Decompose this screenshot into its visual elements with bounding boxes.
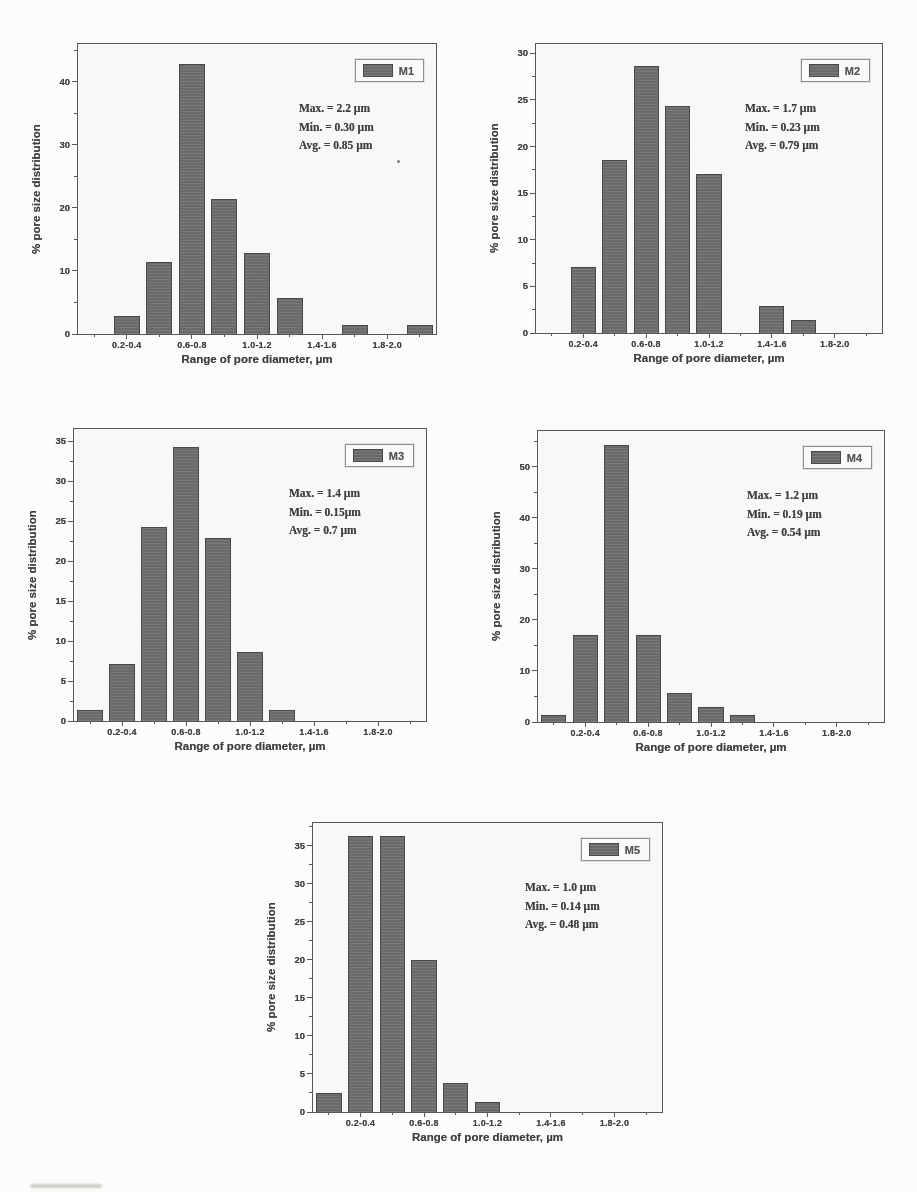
- x-axis-minor-tick: [419, 334, 420, 337]
- x-axis-tick: [550, 1112, 551, 1117]
- x-axis-minor-tick: [354, 334, 355, 337]
- x-axis-tick: [257, 334, 258, 339]
- y-tick-label: 30: [504, 563, 530, 574]
- x-tick-label: 1.0-1.2: [677, 339, 741, 349]
- x-tick-label: 0.6-0.8: [616, 728, 680, 738]
- x-axis-tick: [378, 721, 379, 726]
- y-tick-label: 15: [279, 992, 305, 1003]
- legend-m2: M2: [801, 59, 870, 82]
- y-axis-minor-tick: [532, 263, 536, 264]
- y-axis-tick: [68, 721, 74, 722]
- y-axis-title: % pore size distribution: [28, 44, 44, 334]
- y-tick-label: 30: [502, 47, 528, 58]
- x-axis-tick: [711, 722, 712, 727]
- stats-annotation-m2: Max. = 1.7 µm Min. = 0.23 µm Avg. = 0.79…: [745, 99, 877, 155]
- scanned-figure-page: % pore size distribution Range of pore d…: [0, 0, 917, 1192]
- y-axis-tick: [72, 81, 78, 82]
- y-axis-tick: [68, 561, 74, 562]
- stat-min: Min. = 0.23 µm: [745, 118, 877, 137]
- x-axis-minor-tick: [646, 1112, 647, 1115]
- x-axis-minor-tick: [616, 722, 617, 725]
- x-axis-minor-tick: [677, 333, 678, 336]
- y-axis-minor-tick: [74, 302, 78, 303]
- x-axis-minor-tick: [614, 333, 615, 336]
- stats-annotation-m5: Max. = 1.0 µm Min. = 0.14 µm Avg. = 0.48…: [525, 878, 657, 934]
- bar-2.0-2.2: [407, 325, 433, 334]
- x-axis-minor-tick: [159, 334, 160, 337]
- stat-min: Min. = 0.30 µm: [299, 118, 431, 137]
- y-axis-minor-tick: [309, 940, 313, 941]
- x-axis-minor-tick: [410, 721, 411, 724]
- y-axis-tick: [530, 53, 536, 54]
- x-axis-minor-tick: [346, 721, 347, 724]
- y-axis-tick: [72, 334, 78, 335]
- y-axis-minor-tick: [74, 113, 78, 114]
- y-axis-tick: [532, 619, 538, 620]
- x-tick-label: 0.6-0.8: [154, 727, 218, 737]
- y-axis-minor-tick: [70, 621, 74, 622]
- bar-1.2-1.4: [277, 298, 303, 334]
- x-axis-minor-tick: [455, 1112, 456, 1115]
- x-axis-minor-tick: [742, 722, 743, 725]
- y-axis-minor-tick: [532, 216, 536, 217]
- x-axis-tick: [250, 721, 251, 726]
- y-tick-label: 0: [504, 716, 530, 727]
- chart-m5-plot-area: % pore size distribution Range of pore d…: [312, 822, 663, 1113]
- y-axis-minor-tick: [70, 461, 74, 462]
- legend-swatch-icon: [811, 451, 841, 464]
- y-tick-label: 25: [40, 515, 66, 526]
- y-tick-label: 20: [504, 614, 530, 625]
- x-axis-title: Range of pore diameter, µm: [536, 352, 882, 364]
- legend-label: M4: [847, 452, 862, 464]
- stat-min: Min. = 0.19 µm: [747, 505, 879, 524]
- x-axis-title: Range of pore diameter, µm: [538, 741, 884, 753]
- chart-m1-plot-area: % pore size distribution Range of pore d…: [77, 43, 437, 335]
- x-tick-label: 1.8-2.0: [346, 727, 410, 737]
- y-axis-tick: [530, 239, 536, 240]
- bar-0.2-0.4: [348, 836, 373, 1112]
- bar-0.4-0.6: [146, 262, 172, 334]
- y-tick-label: 20: [40, 555, 66, 566]
- x-axis-title: Range of pore diameter, µm: [74, 740, 426, 752]
- x-axis-minor-tick: [289, 334, 290, 337]
- stat-avg: Avg. = 0.79 µm: [745, 136, 877, 155]
- stat-avg: Avg. = 0.48 µm: [525, 915, 657, 934]
- y-tick-label: 35: [40, 435, 66, 446]
- y-axis-title: % pore size distribution: [24, 429, 40, 721]
- y-axis-tick: [307, 1112, 313, 1113]
- y-axis-tick: [307, 845, 313, 846]
- y-axis-minor-tick: [532, 309, 536, 310]
- y-axis-tick: [307, 959, 313, 960]
- legend-m5: M5: [581, 838, 650, 861]
- legend-swatch-icon: [809, 64, 839, 77]
- y-axis-title: % pore size distribution: [486, 44, 502, 333]
- y-tick-label: 50: [504, 461, 530, 472]
- bar-1.0-1.2: [475, 1102, 500, 1112]
- y-tick-label: 20: [44, 202, 70, 213]
- x-tick-label: 1.4-1.6: [519, 1118, 583, 1128]
- x-tick-label: 0.6-0.8: [160, 340, 224, 350]
- stat-max: Max. = 2.2 µm: [299, 99, 431, 118]
- legend-swatch-icon: [589, 843, 619, 856]
- y-axis-minor-tick: [309, 1054, 313, 1055]
- bar-1.2-1.4: [269, 710, 295, 721]
- y-tick-label: 5: [279, 1068, 305, 1079]
- x-tick-label: 0.2-0.4: [329, 1118, 393, 1128]
- bar-0.0-0.2: [541, 715, 566, 722]
- x-axis-title: Range of pore diameter, µm: [78, 353, 436, 365]
- x-axis-minor-tick: [90, 721, 91, 724]
- x-axis-tick: [836, 722, 837, 727]
- y-axis-minor-tick: [70, 661, 74, 662]
- bar-0.6-0.8: [411, 960, 436, 1112]
- y-tick-label: 0: [40, 715, 66, 726]
- bar-0.8-1.0: [667, 693, 692, 722]
- y-axis-minor-tick: [309, 864, 313, 865]
- y-axis-tick: [68, 441, 74, 442]
- x-tick-label: 1.0-1.2: [679, 728, 743, 738]
- y-tick-label: 25: [279, 916, 305, 927]
- bar-0.4-0.6: [141, 527, 167, 721]
- y-axis-minor-tick: [534, 594, 538, 595]
- y-axis-minor-tick: [309, 826, 313, 827]
- x-axis-minor-tick: [392, 1112, 393, 1115]
- x-axis-tick: [771, 333, 772, 338]
